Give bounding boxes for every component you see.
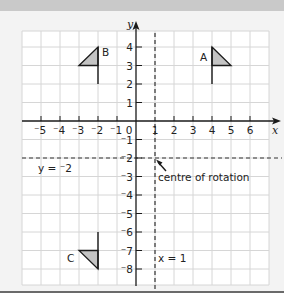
centre-of-rotation-label: centre of rotation — [158, 171, 250, 183]
x-tick-label: 1 — [152, 124, 159, 136]
x-tick-label: ⁻5 — [34, 124, 46, 136]
y-tick-label: 1 — [126, 97, 133, 109]
x-tick-label: 5 — [228, 124, 235, 136]
y-tick-label: ⁻1 — [121, 134, 133, 146]
x-tick-label: 3 — [190, 124, 197, 136]
line-x-label: x = 1 — [158, 252, 186, 264]
y-tick-label: 4 — [126, 41, 133, 53]
x-tick-label: 4 — [209, 124, 216, 136]
y-tick-label: ⁻7 — [121, 245, 133, 257]
x-tick-label: 2 — [171, 124, 178, 136]
y-tick-label: ⁻5 — [121, 208, 133, 220]
line-y-label: y = ⁻2 — [38, 162, 72, 174]
y-tick-label: ⁻6 — [121, 226, 134, 238]
y-tick-label: ⁻8 — [121, 263, 133, 275]
y-tick-label: ⁻4 — [121, 189, 134, 201]
y-tick-label: 2 — [126, 78, 133, 90]
x-axis-label: x — [272, 124, 279, 137]
coordinate-grid-diagram: ⁻5 ⁻4 ⁻3 ⁻2 ⁻1 0 1 2 3 4 5 6 4 3 2 1 ⁻1 … — [0, 0, 298, 307]
shape-a-label: A — [200, 51, 208, 63]
y-axis-label: y — [126, 18, 134, 31]
y-tick-label: ⁻2 — [121, 152, 133, 164]
x-tick-label: ⁻3 — [72, 124, 84, 136]
shape-b-label: B — [102, 46, 109, 58]
y-tick-label: 3 — [126, 60, 133, 72]
x-tick-label: 6 — [247, 124, 254, 136]
x-tick-label: ⁻2 — [91, 124, 103, 136]
shape-c-label: C — [67, 252, 74, 264]
x-tick-label: ⁻4 — [53, 124, 66, 136]
y-tick-label: ⁻3 — [121, 171, 133, 183]
